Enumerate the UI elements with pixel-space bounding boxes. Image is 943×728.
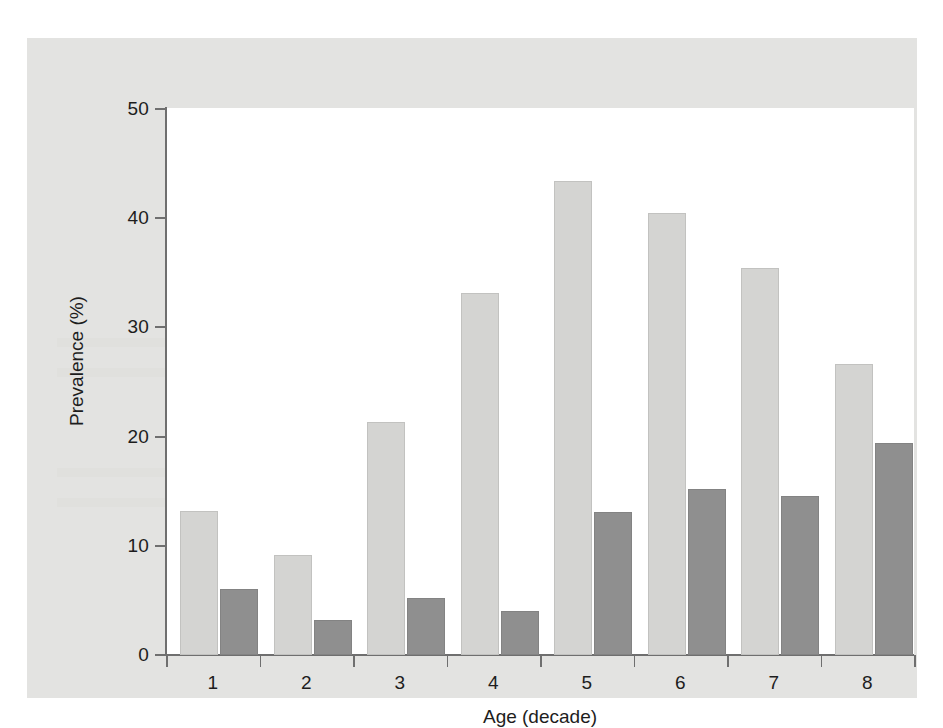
x-tick-5 [540, 655, 542, 667]
x-tick-7 [727, 655, 729, 667]
y-tick-20 [155, 436, 166, 438]
x-tick-label-8: 8 [837, 672, 897, 694]
y-tick-0 [155, 654, 166, 656]
bar-dark-series-3 [407, 598, 445, 655]
bar-light-series-4 [461, 293, 499, 655]
x-tick-label-1: 1 [183, 672, 243, 694]
x-tick-8 [821, 655, 823, 667]
bar-light-series-5 [554, 181, 592, 655]
bar-light-series-1 [180, 511, 218, 655]
bar-light-series-2 [274, 555, 312, 655]
bar-dark-series-1 [220, 589, 258, 655]
bar-light-series-3 [367, 422, 405, 655]
x-tick-label-3: 3 [370, 672, 430, 694]
bar-light-series-8 [835, 364, 873, 655]
x-tick-label-2: 2 [276, 672, 336, 694]
x-tick-label-6: 6 [650, 672, 710, 694]
y-axis-title: Prevalence (%) [66, 281, 88, 441]
y-tick-50 [155, 108, 166, 110]
bar-light-series-7 [741, 268, 779, 655]
x-tick-end [914, 655, 916, 667]
bar-dark-series-2 [314, 620, 352, 655]
y-tick-label-30: 30 [109, 316, 149, 338]
bar-dark-series-8 [875, 443, 913, 655]
x-tick-label-7: 7 [744, 672, 804, 694]
y-tick-30 [155, 326, 166, 328]
x-tick-label-5: 5 [557, 672, 617, 694]
y-tick-label-0: 0 [109, 644, 149, 666]
x-tick-4 [447, 655, 449, 667]
x-axis-title: Age (decade) [166, 706, 914, 728]
x-tick-1 [166, 655, 168, 667]
x-tick-2 [260, 655, 262, 667]
bar-dark-series-7 [781, 496, 819, 655]
x-tick-label-4: 4 [463, 672, 523, 694]
y-tick-10 [155, 545, 166, 547]
x-tick-3 [353, 655, 355, 667]
bar-dark-series-4 [501, 611, 539, 655]
figure-panel: 0 10 20 30 40 50 Prevalence (%) Age (dec… [27, 38, 917, 698]
y-axis-line [165, 107, 167, 656]
y-tick-label-40: 40 [109, 207, 149, 229]
x-tick-6 [634, 655, 636, 667]
bar-dark-series-6 [688, 489, 726, 655]
y-tick-label-10: 10 [109, 535, 149, 557]
bar-dark-series-5 [594, 512, 632, 655]
y-tick-label-50: 50 [109, 98, 149, 120]
y-tick-label-20: 20 [109, 426, 149, 448]
bar-light-series-6 [648, 213, 686, 655]
y-tick-40 [155, 217, 166, 219]
